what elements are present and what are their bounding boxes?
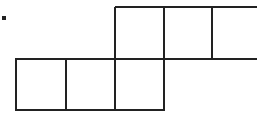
grid-net-diagram: [0, 0, 257, 113]
dot-marker: [2, 16, 6, 20]
top-row: [115, 7, 257, 59]
bottom-row: [16, 59, 164, 110]
bottom-cell-2: [66, 59, 115, 110]
bottom-cell-3: [115, 59, 164, 110]
bottom-cell-1: [16, 59, 66, 110]
